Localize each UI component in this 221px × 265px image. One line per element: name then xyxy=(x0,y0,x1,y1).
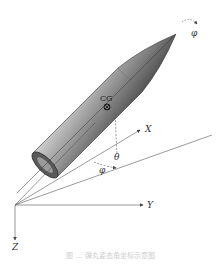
theta-label: θ xyxy=(114,152,120,162)
y-axis-label: Y xyxy=(147,200,154,210)
projectile-attitude-diagram: CG X Y Z θ φ φ xyxy=(0,0,221,265)
cg-label: CG xyxy=(100,94,113,103)
figure-caption: 图 ... 弹丸姿态角坐标示意图 xyxy=(0,250,221,260)
roll-label: φ xyxy=(191,28,198,38)
projectile-body xyxy=(5,22,188,205)
axes xyxy=(15,19,212,240)
theta-dashed-line xyxy=(115,113,117,155)
x-axis-label: X xyxy=(144,124,152,134)
psi-label: φ xyxy=(99,165,106,175)
roll-arc xyxy=(182,19,197,24)
